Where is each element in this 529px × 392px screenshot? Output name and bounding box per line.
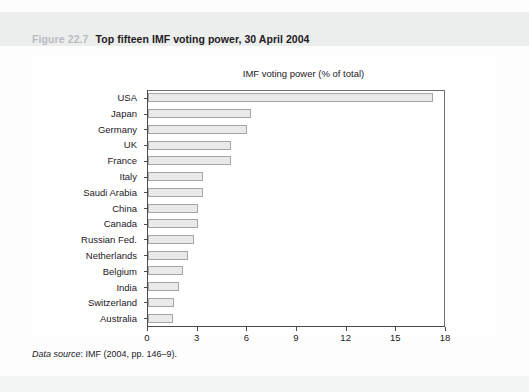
y-axis-tick (144, 224, 148, 225)
figure-title: Top fifteen IMF voting power, 30 April 2… (96, 33, 310, 45)
bar-row (148, 232, 445, 248)
bar-row (148, 200, 445, 216)
page-bottom-band (0, 376, 529, 392)
bar (148, 314, 173, 323)
figure-number: Figure 22.7 (32, 33, 89, 45)
bar (148, 204, 198, 213)
bar (148, 109, 251, 118)
bar (148, 125, 247, 134)
figure-caption: Figure 22.7 Top fifteen IMF voting power… (32, 33, 309, 45)
y-axis-tick (144, 177, 148, 178)
bar-row (148, 216, 445, 232)
chart-title-text: IMF voting power (% of total) (243, 68, 364, 79)
y-axis-label: China (32, 201, 143, 217)
y-axis-label: France (32, 153, 143, 169)
y-axis-label: Germany (32, 122, 143, 138)
source-note: Data source: IMF (2004, pp. 146–9). (32, 349, 177, 359)
y-axis-label: Russian Fed. (32, 232, 143, 248)
y-axis-tick (144, 192, 148, 193)
y-axis-label: UK (32, 137, 143, 153)
y-axis-label: India (32, 280, 143, 296)
bar-row (148, 106, 445, 122)
bar-row (148, 247, 445, 263)
x-axis-tick (395, 327, 396, 331)
x-axis-tick-label: 12 (340, 332, 351, 343)
bar (148, 172, 203, 181)
y-axis-label: Japan (32, 106, 143, 122)
y-axis-tick (144, 239, 148, 240)
bar-row (148, 90, 445, 106)
bar-row (148, 279, 445, 295)
bar-row (148, 153, 445, 169)
bar-row (148, 295, 445, 311)
x-axis-tick-label: 6 (244, 332, 249, 343)
x-axis-tick (197, 327, 198, 331)
bar (148, 298, 174, 307)
source-note-label: Data source (32, 349, 81, 359)
bar (148, 266, 183, 275)
y-axis-label: Netherlands (32, 248, 143, 264)
x-axis-tick-label: 18 (440, 332, 451, 343)
y-axis-tick (144, 129, 148, 130)
bar-row (148, 263, 445, 279)
bar (148, 156, 231, 165)
bar-row (148, 184, 445, 200)
x-axis-tick (246, 327, 247, 331)
y-axis-label: Switzerland (32, 295, 143, 311)
source-note-text: : IMF (2004, pp. 146–9). (81, 349, 178, 359)
bar-row (148, 169, 445, 185)
y-axis-tick (144, 145, 148, 146)
x-axis-tick-label: 3 (194, 332, 199, 343)
x-axis-tick (445, 327, 446, 331)
chart-container: IMF voting power (% of total) USAJapanGe… (32, 56, 497, 337)
bar-row (148, 310, 445, 326)
y-axis-tick (144, 161, 148, 162)
bar (148, 219, 198, 228)
bar (148, 251, 188, 260)
bar (148, 93, 433, 102)
x-axis-tick-label: 9 (293, 332, 298, 343)
y-axis-label: Saudi Arabia (32, 185, 143, 201)
bar-row (148, 121, 445, 137)
y-axis-tick (144, 271, 148, 272)
plot-area (147, 90, 445, 327)
y-axis-tick (144, 302, 148, 303)
figure-header-band: Figure 22.7 Top fifteen IMF voting power… (0, 12, 529, 46)
y-axis-label: Australia (32, 311, 143, 327)
bar (148, 282, 179, 291)
bar-series (148, 90, 445, 326)
chart-title: IMF voting power (% of total) (32, 68, 497, 79)
y-axis-tick (144, 208, 148, 209)
y-axis-tick (144, 287, 148, 288)
x-axis-tick-label: 0 (144, 332, 149, 343)
y-axis-category-labels: USAJapanGermanyUKFranceItalySaudi Arabia… (32, 90, 143, 326)
y-axis-label: Belgium (32, 264, 143, 280)
bar (148, 235, 194, 244)
x-axis-ticks: 0369121518 (147, 327, 445, 347)
y-axis-tick (144, 318, 148, 319)
y-axis-label: USA (32, 90, 143, 106)
y-axis-tick (144, 255, 148, 256)
figure-page: Figure 22.7 Top fifteen IMF voting power… (0, 0, 529, 392)
x-axis-tick-label: 15 (390, 332, 401, 343)
y-axis-label: Italy (32, 169, 143, 185)
bar-row (148, 137, 445, 153)
bar (148, 141, 231, 150)
y-axis-label: Canada (32, 216, 143, 232)
x-axis-tick (346, 327, 347, 331)
x-axis-tick (147, 327, 148, 331)
bar (148, 188, 203, 197)
x-axis-tick (296, 327, 297, 331)
y-axis-tick (144, 98, 148, 99)
y-axis-tick (144, 114, 148, 115)
